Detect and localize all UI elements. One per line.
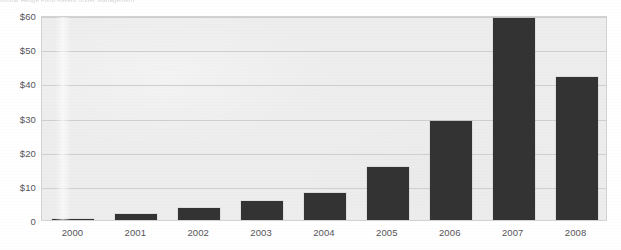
- y-axis-labels: 0$10$20$30$40$50$60: [0, 0, 36, 250]
- plot-area: [41, 16, 607, 221]
- x-axis-tick-label: 2001: [104, 227, 167, 238]
- y-axis-tick-label: $60: [20, 11, 36, 22]
- y-axis-tick-label: 0: [31, 216, 36, 227]
- bar: [241, 201, 283, 220]
- y-axis-tick-label: $30: [20, 113, 36, 124]
- bar: [493, 18, 535, 220]
- y-axis-tick-label: $20: [20, 147, 36, 158]
- x-axis-tick-label: 2002: [167, 227, 230, 238]
- x-axis-labels: 200020012002200320042005200620072008: [41, 227, 607, 243]
- bar: [304, 193, 346, 220]
- x-axis-tick-label: 2000: [41, 227, 104, 238]
- x-axis-tick-label: 2004: [293, 227, 356, 238]
- bar: [430, 121, 472, 220]
- bar: [367, 167, 409, 220]
- x-axis-tick-label: 2006: [418, 227, 481, 238]
- x-axis-tick-label: 2007: [481, 227, 544, 238]
- scan-band-artifact: [55, 17, 71, 220]
- y-axis-tick-label: $40: [20, 79, 36, 90]
- bar: [556, 77, 598, 221]
- y-axis-tick-label: $50: [20, 45, 36, 56]
- bar-chart: 0$10$20$30$40$50$60 20002001200220032004…: [0, 0, 621, 250]
- bar: [115, 214, 157, 220]
- bar: [178, 208, 220, 220]
- x-axis-tick-label: 2005: [355, 227, 418, 238]
- x-axis-tick-label: 2003: [230, 227, 293, 238]
- x-axis-tick-label: 2008: [544, 227, 607, 238]
- y-axis-tick-label: $10: [20, 181, 36, 192]
- bar: [52, 219, 94, 221]
